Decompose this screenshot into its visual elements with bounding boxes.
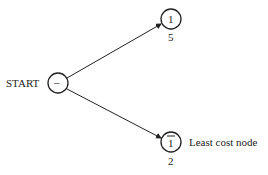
- edge-start-to-node-1bar: [67, 89, 161, 138]
- node-1-symbol: 1: [168, 13, 174, 25]
- edge-start-to-node-1: [67, 24, 161, 78]
- start-label: START: [6, 77, 39, 89]
- search-tree-diagram: START – 1 5 1 2 Least cost node: [0, 0, 268, 175]
- least-cost-node-annotation: Least cost node: [189, 136, 257, 148]
- node-1-cost: 5: [168, 31, 174, 43]
- node-1bar-cost: 2: [168, 155, 174, 167]
- node-1bar-symbol: 1: [168, 137, 174, 149]
- start-node-symbol: –: [54, 76, 60, 88]
- diagram-canvas: [0, 0, 268, 175]
